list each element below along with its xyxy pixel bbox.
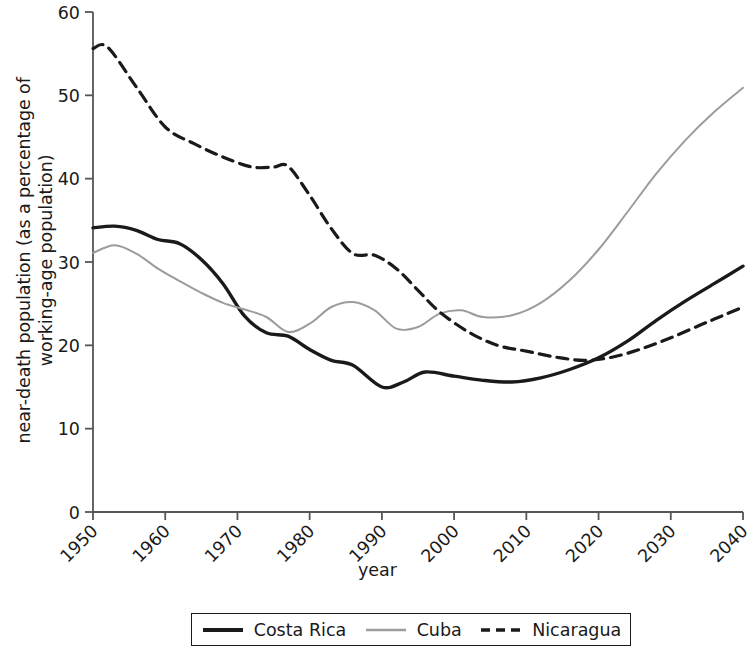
y-tick-label: 40 (58, 169, 80, 189)
chart-figure: near-death population (as a percentage o… (0, 0, 755, 646)
legend-item-nicaragua: Nicaragua (477, 620, 623, 640)
legend-item-cuba: Cuba (362, 620, 464, 640)
legend-swatch-solid-thick-icon (201, 623, 245, 637)
y-tick-label: 50 (58, 86, 80, 106)
y-tick-label: 10 (58, 419, 80, 439)
plot-area: 0102030405060195019601970198019902000201… (0, 0, 755, 600)
series-line-cuba (93, 88, 743, 332)
series-line-nicaragua (93, 44, 743, 360)
legend-swatch-dashed-icon (479, 623, 523, 637)
legend-label-nicaragua: Nicaragua (532, 620, 621, 640)
legend-label-cuba: Cuba (417, 620, 462, 640)
chart-legend: Costa Rica Cuba Nicaragua (191, 613, 631, 646)
x-axis-label: year (0, 560, 755, 580)
legend-swatch-solid-thin-icon (364, 623, 408, 637)
y-tick-label: 30 (58, 253, 80, 273)
y-tick-label: 60 (58, 3, 80, 23)
y-tick-label: 20 (58, 336, 80, 356)
series-line-costa-rica (93, 226, 743, 388)
legend-item-costa-rica: Costa Rica (199, 620, 349, 640)
y-tick-label: 0 (69, 503, 80, 523)
legend-label-costa-rica: Costa Rica (254, 620, 347, 640)
